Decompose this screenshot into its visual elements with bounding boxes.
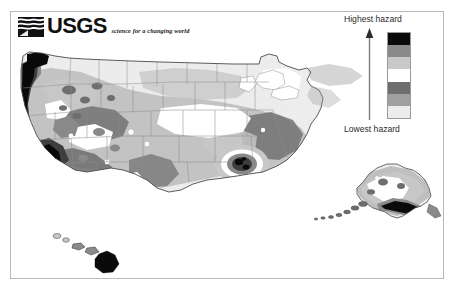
hawaii-inset [53, 234, 119, 273]
charleston-label: Charleston [0, 0, 1, 1]
usgs-hazard-map-figure: USGS science for a changing world Highes… [0, 0, 455, 290]
figure-title: National Seismic Hazard Map [0, 0, 1, 1]
seismic-hazard-map [11, 12, 443, 278]
ocean-tone [307, 64, 363, 108]
aleutian-chain [314, 202, 367, 220]
alaska-inset [314, 157, 443, 227]
new-madrid-hotspot [215, 145, 269, 183]
conus-hazard-layer [11, 12, 443, 278]
hawaii-inset-label: Hawaii [0, 0, 1, 1]
new-madrid-label: New Madrid [0, 0, 1, 1]
alaska-inset-label: Alaska [0, 0, 1, 1]
charleston-hotspot [270, 161, 302, 183]
big-island-hawaii [95, 251, 119, 273]
